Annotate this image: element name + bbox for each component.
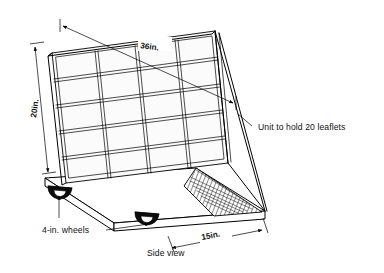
- technical-drawing-root: 36in. 20in. 15in. Unit to hold 20 leafle…: [0, 0, 384, 273]
- callout-capacity: Unit to hold 20 leaflets: [238, 114, 345, 132]
- rack-front-face: [48, 31, 228, 185]
- dimension-height-20in: 20in.: [23, 42, 56, 174]
- callout-capacity-label: Unit to hold 20 leaflets: [258, 122, 345, 132]
- leaflet-unit-drawing: 36in. 20in. 15in. Unit to hold 20 leafle…: [0, 0, 384, 273]
- caption-side-view-label: Side view: [147, 248, 185, 258]
- dimension-label-height: 20in.: [29, 99, 41, 119]
- callout-wheels-label: 4-in. wheels: [42, 225, 89, 235]
- caption-side-view: Side view: [147, 248, 185, 258]
